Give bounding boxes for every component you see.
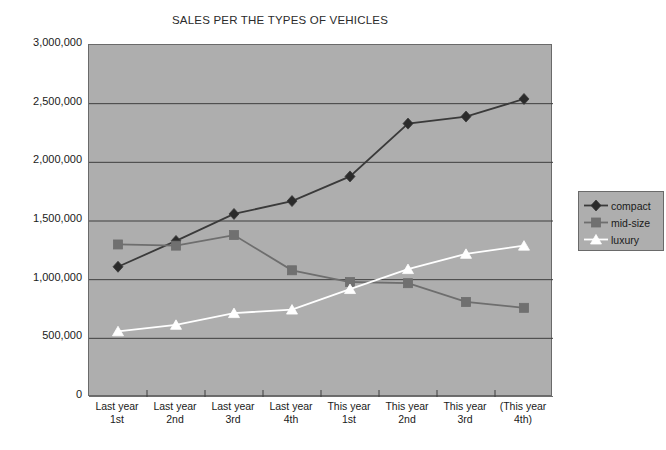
x-axis-tick-label: Last year3rd — [204, 400, 262, 426]
data-point-marker — [519, 93, 529, 104]
legend-item-luxury[interactable]: luxury — [583, 231, 663, 248]
data-point-marker — [461, 111, 471, 122]
chart-container: SALES PER THE TYPES OF VEHICLES 3,000,00… — [0, 0, 666, 450]
legend-item-compact[interactable]: compact — [583, 197, 663, 214]
data-point-marker — [230, 231, 239, 240]
legend-label: luxury — [611, 234, 639, 246]
data-point-marker — [287, 196, 297, 207]
chart-legend: compactmid-sizeluxury — [578, 191, 664, 251]
plot-svg — [89, 45, 553, 397]
legend-item-mid-size[interactable]: mid-size — [583, 214, 663, 231]
x-axis-tick-label: Last year2nd — [146, 400, 204, 426]
triangle-marker-icon — [583, 233, 609, 246]
chart-title: SALES PER THE TYPES OF VEHICLES — [0, 14, 560, 26]
x-axis-tick-label: This year2nd — [378, 400, 436, 426]
data-point-marker — [229, 208, 239, 219]
legend-label: compact — [611, 200, 651, 212]
diamond-marker-icon — [583, 199, 609, 212]
data-point-marker — [172, 241, 181, 250]
legend-label: mid-size — [611, 217, 650, 229]
data-point-marker — [114, 240, 123, 249]
data-point-marker — [520, 303, 529, 312]
series-luxury — [113, 241, 530, 336]
data-point-marker — [591, 200, 601, 211]
x-axis-tick-label: Last year1st — [88, 400, 146, 426]
x-axis-tick-label: Last year4th — [262, 400, 320, 426]
data-point-marker — [592, 218, 601, 227]
x-axis-tick-label: (This year4th) — [494, 400, 552, 426]
x-axis-tick-label: This year3rd — [436, 400, 494, 426]
data-point-marker — [462, 297, 471, 306]
x-axis-tick-label: This year1st — [320, 400, 378, 426]
plot-area — [88, 44, 552, 396]
data-point-marker — [113, 261, 123, 272]
square-marker-icon — [583, 216, 609, 229]
data-point-marker — [404, 279, 413, 288]
data-point-marker — [288, 266, 297, 275]
